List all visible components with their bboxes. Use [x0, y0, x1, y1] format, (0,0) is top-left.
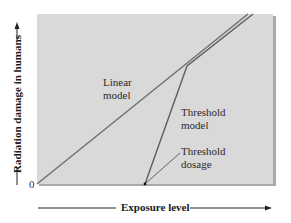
- plot-lines: [0, 0, 291, 223]
- threshold-dosage-point: [144, 183, 147, 186]
- y-axis-arrowhead-icon: [15, 22, 20, 29]
- threshold-model-label: Threshold model: [181, 106, 226, 132]
- x-axis-label: Exposure level: [0, 201, 291, 215]
- x-axis-label-text: Exposure level: [121, 201, 190, 213]
- y-axis-label: Radiation damage in humans: [11, 35, 23, 173]
- linear-model-label-line2: model: [103, 89, 132, 102]
- threshold-dosage-label-line2: dosage: [181, 158, 226, 171]
- threshold-model-label-line1: Threshold: [181, 106, 226, 119]
- threshold-dosage-label: Threshold dosage: [181, 145, 226, 171]
- radiation-threshold-diagram: 0 Linear model Threshold model Threshold…: [0, 0, 291, 223]
- linear-model-label-line1: Linear: [103, 76, 132, 89]
- linear-model-label: Linear model: [103, 76, 132, 102]
- origin-label: 0: [29, 178, 35, 190]
- threshold-model-label-line2: model: [181, 119, 226, 132]
- threshold-dosage-label-line1: Threshold: [181, 145, 226, 158]
